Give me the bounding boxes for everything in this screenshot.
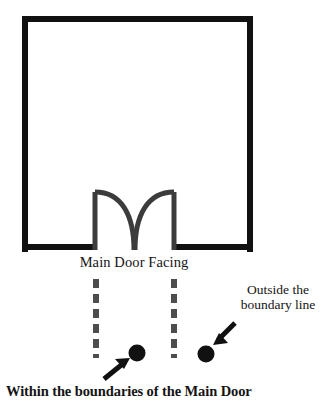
floor-plan-diagram: Main Door Facing Outside the boundary li… xyxy=(0,0,332,404)
left-door-swing-arc xyxy=(95,192,134,250)
door-swing-arcs xyxy=(95,192,174,250)
outside-position-dot xyxy=(198,346,215,363)
house-walls-path xyxy=(25,19,250,249)
outside-boundary-label-line-1: Outside the xyxy=(226,282,330,297)
outside-boundary-label-line-2: boundary line xyxy=(226,297,330,312)
main-door-facing-label: Main Door Facing xyxy=(0,254,268,270)
right-door-swing-arc xyxy=(135,192,174,250)
inside-position-dot xyxy=(129,345,146,362)
outside-pointer-arrow xyxy=(213,323,235,345)
diagram-canvas xyxy=(0,0,332,404)
within-boundaries-label: Within the boundaries of the Main Door xyxy=(0,383,332,399)
inside-pointer-arrow xyxy=(104,358,130,379)
house-rectangle xyxy=(22,19,253,249)
outside-boundary-label: Outside the boundary line xyxy=(226,282,330,312)
